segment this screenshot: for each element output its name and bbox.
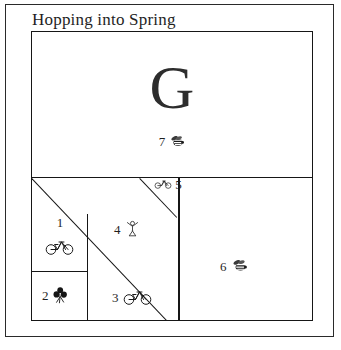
seam-horizontal-left [32,271,88,272]
quilt-pattern-card: Hopping into Spring G 7 [5,4,334,337]
patch-2-number: 2 [42,289,49,303]
patch-3: 3 [88,272,178,319]
patch-6-label: 6 [220,260,248,274]
patch-3-label: 3 [112,288,153,307]
patch-2: 2 [32,272,88,319]
bicycle-icon [154,178,172,191]
patch-4-label: 4 [114,220,140,239]
patch-6-number: 6 [220,260,227,274]
design-block: G 7 6 [31,31,313,321]
patch-2-label: 2 [42,286,68,306]
patch-6: 6 [179,178,312,320]
bicycle-icon [45,238,75,257]
patch-4: 4 [88,200,178,272]
bee-icon [231,260,248,274]
patch-7: G 7 [32,32,312,178]
seam-vertical-left [87,214,88,320]
patch-7-number: 7 [159,135,166,149]
feature-letter: G [32,56,312,118]
bee-icon [169,136,185,149]
patch-7-label: 7 [32,135,312,149]
seam-vertical-right [178,178,179,320]
patch-3-number: 3 [112,291,119,305]
patch-1: 1 [32,214,88,272]
flower-icon [53,286,68,306]
lower-half-region: 6 [32,178,312,320]
patch-5-label: 5 [154,178,176,192]
page-title: Hopping into Spring [32,9,176,31]
figure-icon [125,220,140,239]
patch-4-number: 4 [114,223,121,237]
